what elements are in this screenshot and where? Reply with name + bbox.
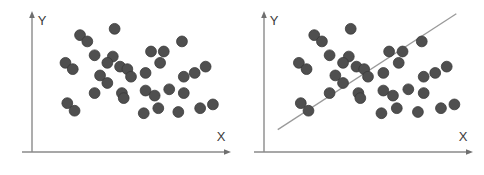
scatter-point: [441, 61, 452, 72]
scatter-point: [178, 71, 189, 82]
scatter-point: [384, 46, 395, 57]
left-y-axis-arrowhead: [29, 11, 35, 18]
right-x-axis-arrowhead: [466, 149, 473, 154]
scatter-point: [178, 88, 189, 99]
right-panel-points: [293, 23, 459, 118]
right-panel-axes: [254, 11, 473, 155]
scatter-point: [102, 57, 113, 68]
scatter-point: [397, 46, 408, 57]
left-x-axis-label: X: [217, 129, 226, 144]
left-panel-axes: [22, 11, 231, 155]
scatter-point: [140, 68, 151, 79]
scatter-point: [418, 71, 429, 82]
right-panel-canvas: Y X: [242, 0, 484, 175]
scatter-point: [195, 103, 206, 114]
scatter-point: [378, 68, 389, 79]
scatter-point: [189, 68, 200, 79]
scatter-point: [363, 71, 374, 82]
scatter-point: [301, 64, 312, 75]
scatter-point: [146, 46, 157, 57]
scatter-point: [378, 85, 389, 96]
scatter-point: [430, 68, 441, 79]
left-panel-canvas: Y X: [0, 0, 242, 175]
scatter-point: [158, 46, 169, 57]
scatter-point: [173, 107, 184, 118]
scatter-point: [418, 88, 429, 99]
scatter-point: [102, 78, 113, 89]
scatter-point: [155, 57, 166, 68]
scatter-point: [138, 108, 149, 119]
scatter-plot-figure: Y X Y X: [0, 0, 484, 175]
scatter-point: [403, 84, 414, 95]
scatter-point: [324, 88, 335, 99]
scatter-point: [324, 50, 335, 61]
scatter-point: [388, 90, 399, 101]
right-y-axis-arrowhead: [261, 11, 267, 18]
left-scatter-panel: Y X: [0, 0, 242, 175]
scatter-point: [89, 50, 100, 61]
scatter-point: [153, 103, 164, 114]
left-y-axis-label: Y: [38, 13, 47, 28]
scatter-point: [303, 105, 314, 116]
scatter-point: [416, 36, 427, 47]
scatter-point: [118, 93, 129, 104]
right-y-axis-label: Y: [270, 13, 279, 28]
scatter-point: [89, 88, 100, 99]
scatter-point: [393, 57, 404, 68]
scatter-point: [200, 61, 211, 72]
scatter-point: [436, 103, 447, 114]
scatter-point: [149, 90, 160, 101]
right-scatter-panel: Y X: [242, 0, 484, 175]
scatter-point: [376, 108, 387, 119]
right-x-axis-label: X: [459, 129, 468, 144]
scatter-point: [164, 84, 175, 95]
scatter-point: [109, 23, 120, 34]
scatter-point: [208, 99, 219, 110]
scatter-point: [82, 36, 93, 47]
scatter-point: [69, 105, 80, 116]
scatter-point: [413, 107, 424, 118]
scatter-point: [338, 78, 349, 89]
scatter-point: [177, 36, 188, 47]
scatter-point: [317, 36, 328, 47]
scatter-point: [449, 99, 460, 110]
left-x-axis-arrowhead: [224, 149, 231, 154]
scatter-point: [338, 57, 349, 68]
scatter-point: [345, 23, 356, 34]
scatter-point: [126, 71, 137, 82]
scatter-point: [391, 103, 402, 114]
left-panel-points: [60, 23, 218, 118]
scatter-point: [67, 64, 78, 75]
scatter-point: [355, 93, 366, 104]
